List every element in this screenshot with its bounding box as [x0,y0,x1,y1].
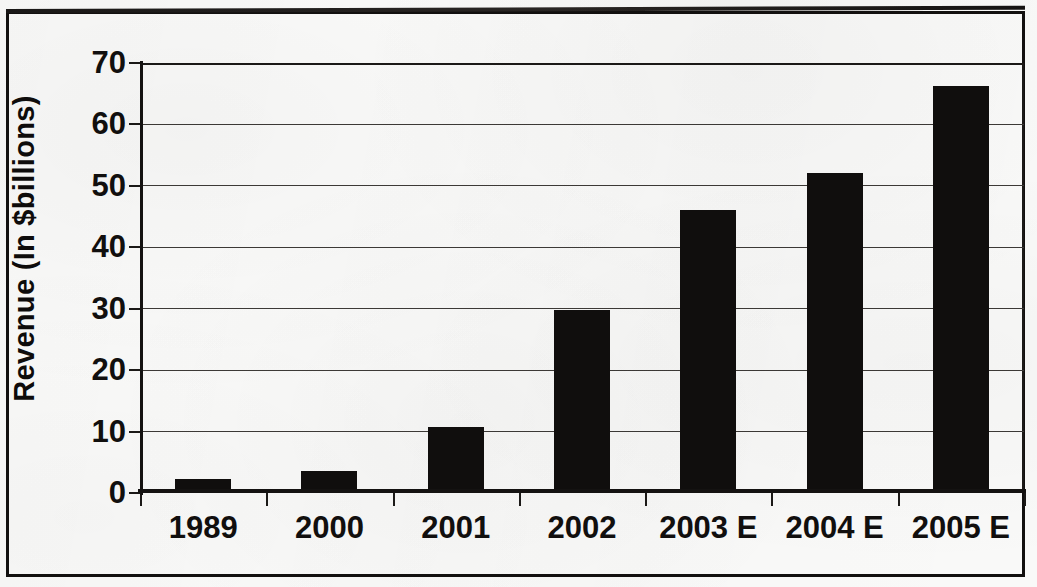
bar [807,173,863,491]
bar [554,310,610,491]
chart-page: Revenue (In $billions) 010203040506070 1… [0,0,1037,587]
plot-top-border [140,63,1024,65]
x-axis-line [138,489,1026,493]
y-axis-tick-label: 70 [92,47,126,78]
y-axis-line [140,61,143,495]
x-axis-tick [519,492,521,506]
y-axis-tick-label: 0 [109,477,126,508]
x-axis-tick [645,492,647,506]
x-axis-tick [393,492,395,506]
plot-area [140,63,1024,493]
x-axis-tick-label: 2000 [266,512,392,543]
x-axis-tick [898,492,900,506]
gridline [140,185,1024,186]
x-axis-tick-label: 2001 [393,512,519,543]
bar [428,427,484,491]
y-axis-title: Revenue (In $billions) [8,39,41,459]
x-axis-tick [771,492,773,506]
x-axis-tick [1024,492,1026,506]
x-axis-tick [266,492,268,506]
bar [933,86,989,491]
plot-right-border [1022,63,1024,493]
y-axis-tick-label: 20 [92,354,126,385]
x-axis-tick-label: 2005 E [898,512,1024,543]
y-axis-tick-label: 10 [92,416,126,447]
x-axis-tick-label: 1989 [140,512,266,543]
y-axis-tick-label: 40 [92,231,126,262]
y-axis-tick-labels: 010203040506070 [58,63,126,493]
x-axis-tick-label: 2004 E [771,512,897,543]
y-axis-tick-label: 60 [92,108,126,139]
x-axis-tick-label: 2003 E [645,512,771,543]
gridline [140,124,1024,125]
gridline [140,308,1024,309]
y-axis-tick-label: 30 [92,293,126,324]
bar [680,210,736,491]
gridline [140,247,1024,248]
bar [301,471,357,491]
x-axis-tick-labels: 19892000200120022003 E2004 E2005 E [140,512,1028,556]
x-axis-tick-label: 2002 [519,512,645,543]
y-axis-tick-label: 50 [92,170,126,201]
